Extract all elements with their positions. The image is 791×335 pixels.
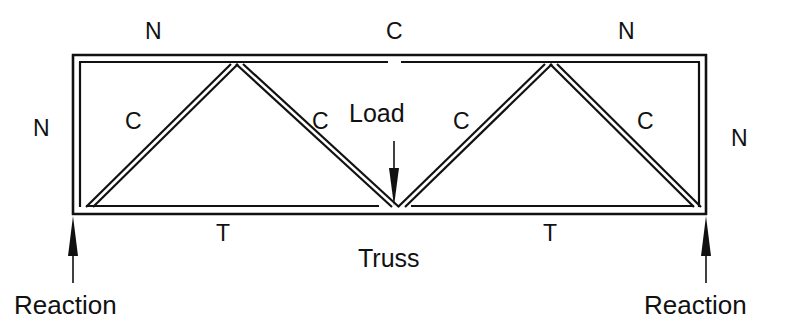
label-diagonal-2-C: C: [312, 110, 329, 133]
diagonal-member-1: [86, 64, 238, 207]
label-top-chord-left-N: N: [145, 20, 162, 43]
reaction-arrow-right: [701, 216, 711, 283]
truss-inner-frame: [79, 62, 700, 207]
label-left-post-N: N: [33, 117, 50, 140]
diagonal-member-2: [236, 64, 399, 207]
label-top-chord-center-C: C: [386, 20, 403, 43]
label-right-post-N: N: [731, 127, 748, 150]
diagonal-2-line-a: [236, 64, 392, 207]
label-reaction-left: Reaction: [14, 292, 117, 318]
label-truss-caption: Truss: [358, 246, 420, 271]
diagonal-4-line-a: [550, 64, 694, 207]
label-load: Load: [349, 101, 405, 126]
reaction-arrow-left: [68, 216, 78, 283]
diagonal-member-3: [398, 64, 552, 207]
truss-diagram: N C N N N C C C C T T Load Truss Reactio…: [0, 0, 791, 335]
label-diagonal-4-C: C: [637, 110, 654, 133]
diagonal-member-4: [550, 64, 701, 207]
load-arrow: [389, 141, 399, 206]
reaction-right-arrow-head: [701, 216, 711, 256]
diagonal-1-line-b: [93, 64, 238, 207]
label-reaction-right: Reaction: [644, 292, 747, 318]
diagonal-3-line-a: [398, 64, 545, 207]
diagonal-1-line-a: [86, 64, 231, 207]
label-diagonal-3-C: C: [453, 110, 470, 133]
diagonal-2-line-b: [243, 64, 399, 207]
label-bottom-chord-right-T: T: [543, 222, 557, 245]
diagonal-4-line-b: [557, 64, 701, 207]
truss-drawing: [0, 0, 791, 335]
label-top-chord-right-N: N: [618, 20, 635, 43]
reaction-left-arrow-head: [68, 216, 78, 256]
diagonal-3-line-b: [405, 64, 552, 207]
label-bottom-chord-left-T: T: [216, 222, 230, 245]
label-diagonal-1-C: C: [125, 110, 142, 133]
